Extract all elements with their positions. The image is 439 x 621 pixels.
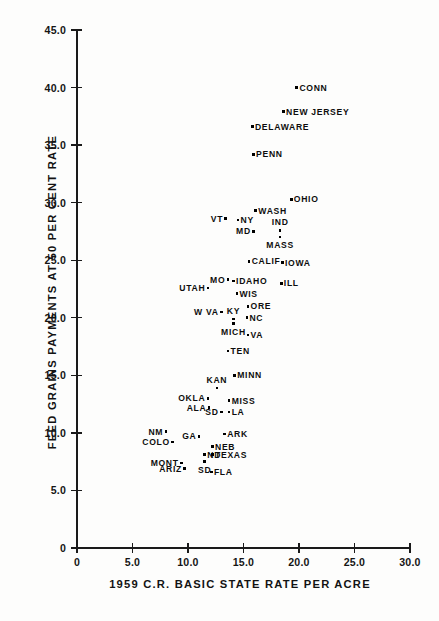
data-point (279, 229, 282, 232)
data-point-label: FLA (214, 467, 334, 477)
data-point-label: ILL (284, 278, 404, 288)
data-point (227, 278, 230, 281)
x-tick-label: 0 (52, 556, 102, 568)
y-tick-label: 15.0 (18, 369, 66, 381)
y-tick-label: 30.0 (18, 197, 66, 209)
data-point (248, 260, 251, 263)
y-tick-label: 0 (18, 542, 66, 554)
x-tick-mark (298, 543, 299, 553)
data-point (227, 350, 230, 353)
data-point (183, 467, 186, 470)
data-point (216, 387, 219, 390)
y-tick-mark (71, 29, 82, 30)
x-tick-mark (187, 543, 188, 553)
x-tick-label: 25.0 (330, 556, 380, 568)
data-point (251, 125, 254, 128)
x-tick-mark (409, 543, 410, 553)
data-point-label: KAN (157, 375, 277, 385)
data-point-label: PENN (256, 149, 376, 159)
data-point-label: IOWA (285, 258, 405, 268)
data-point-label: MISS (232, 396, 352, 406)
x-tick-label: 30.0 (385, 556, 435, 568)
data-point-label: WIS (239, 289, 359, 299)
data-point-label: NC (249, 313, 369, 323)
data-point (210, 471, 213, 474)
x-tick-label: 20.0 (274, 556, 324, 568)
y-tick-label: 45.0 (18, 24, 66, 36)
y-tick-label: 25.0 (18, 254, 66, 266)
data-point-label: VA (251, 330, 371, 340)
data-point-label: TEXAS (215, 450, 335, 460)
x-tick-mark (132, 543, 133, 553)
y-tick-mark (71, 375, 82, 376)
y-tick-mark (71, 490, 82, 491)
x-axis-title: 1959 C.R. BASIC STATE RATE PER ACRE (60, 578, 420, 590)
data-point-label: COLO (50, 437, 170, 447)
y-tick-mark (71, 202, 82, 203)
data-point (203, 453, 206, 456)
x-tick-label: 15.0 (219, 556, 269, 568)
scatter-plot-figure: FEED GRAINS PAYMENTS AT 50 PER CENT RATE… (0, 0, 439, 621)
data-point (290, 198, 293, 201)
data-point (171, 441, 174, 444)
data-point (252, 153, 255, 156)
data-point (207, 397, 210, 400)
data-point (254, 209, 257, 212)
data-point (252, 230, 255, 233)
data-point (280, 282, 283, 285)
data-point (228, 399, 231, 402)
data-point (203, 460, 206, 463)
data-point (246, 316, 249, 319)
data-point (223, 433, 226, 436)
data-point (211, 453, 214, 456)
data-point (282, 110, 285, 113)
data-point-label: VT (103, 214, 223, 224)
x-tick-mark (76, 543, 77, 553)
data-point-label: ARK (227, 429, 347, 439)
data-point (232, 322, 235, 325)
data-point (236, 292, 239, 295)
data-point-label: DELAWARE (255, 122, 375, 132)
data-point (232, 318, 235, 321)
y-tick-mark (71, 317, 82, 318)
data-point (228, 411, 231, 414)
data-point-label: MD (131, 226, 251, 236)
y-tick-label: 5.0 (18, 484, 66, 496)
data-point-label: NEW JERSEY (286, 107, 406, 117)
data-point-label: TEN (231, 346, 351, 356)
y-tick-mark (71, 144, 82, 145)
data-point-label: MASS (220, 240, 340, 250)
y-tick-label: 20.0 (18, 312, 66, 324)
data-point (211, 445, 214, 448)
x-tick-label: 5.0 (108, 556, 158, 568)
y-tick-mark (71, 87, 82, 88)
data-point (247, 334, 250, 337)
data-point-label: SD (99, 407, 219, 417)
data-point-label: LA (232, 407, 352, 417)
x-tick-label: 10.0 (163, 556, 213, 568)
y-tick-mark (71, 260, 82, 261)
data-point-label: CONN (299, 83, 419, 93)
x-tick-mark (354, 543, 355, 553)
data-point-label: UTAH (85, 283, 205, 293)
data-point (220, 411, 223, 414)
data-point (295, 86, 298, 89)
data-point (281, 261, 284, 264)
data-point (279, 236, 282, 239)
data-point (232, 280, 235, 283)
y-tick-label: 40.0 (18, 82, 66, 94)
data-point (198, 435, 201, 438)
x-tick-mark (243, 543, 244, 553)
y-tick-label: 35.0 (18, 139, 66, 151)
data-point-label: ARIZ (62, 464, 182, 474)
data-point (207, 287, 210, 290)
data-point-label: OHIO (294, 194, 414, 204)
